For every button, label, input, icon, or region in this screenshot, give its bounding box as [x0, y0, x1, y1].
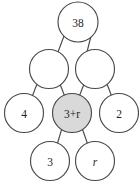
- node-circle-mid-left[interactable]: [30, 50, 69, 89]
- pyramid-node-base-right[interactable]: r: [76, 142, 115, 181]
- node-label-base-right: r: [93, 156, 98, 168]
- node-label-base-left: 3: [47, 156, 53, 168]
- connector-line-apex-to-mid-left: [58, 36, 64, 52]
- node-label-low-center: 3+r: [64, 108, 80, 120]
- pyramid-node-mid-right[interactable]: [76, 50, 115, 89]
- pyramid-node-low-left[interactable]: 4: [5, 94, 44, 133]
- node-label-low-left: 4: [21, 108, 27, 120]
- node-label-low-right: 2: [116, 108, 122, 120]
- connector-line-low-center-to-base-left: [57, 128, 62, 145]
- pyramid-node-mid-left[interactable]: [30, 50, 69, 89]
- pyramid-canvas: 3843+r23r: [0, 0, 139, 184]
- pyramid-node-base-left[interactable]: 3: [31, 142, 70, 181]
- node-label-apex: 38: [72, 17, 84, 29]
- node-circle-mid-right[interactable]: [76, 50, 115, 89]
- pyramid-node-low-right[interactable]: 2: [100, 94, 139, 133]
- pyramid-node-low-center[interactable]: 3+r: [53, 94, 92, 133]
- pyramid-node-apex[interactable]: 38: [58, 2, 98, 42]
- connector-line-low-center-to-base-right: [82, 128, 88, 145]
- number-pyramid-diagram: 3843+r23r: [0, 0, 139, 184]
- pyramid-nodes-group: 3843+r23r: [5, 2, 139, 181]
